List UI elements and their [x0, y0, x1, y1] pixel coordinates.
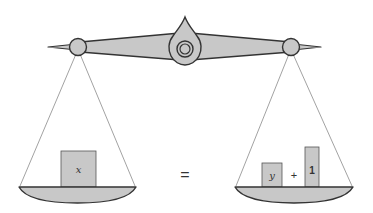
scale-beam [48, 17, 321, 65]
balance-scale-diagram: x = y + 1 [0, 0, 373, 213]
right-box-1: 1 [305, 147, 319, 187]
right-pan-dish [235, 187, 353, 203]
box-label-y: y [268, 170, 275, 181]
plus-sign: + [291, 169, 297, 181]
right-pan-strings [236, 54, 352, 186]
left-pan-dish [19, 187, 136, 203]
box-label-1: 1 [309, 165, 315, 176]
equals-sign: = [180, 166, 189, 183]
box-label-x: x [76, 164, 82, 175]
right-pivot [283, 39, 300, 56]
right-box-y: y [262, 163, 282, 187]
left-box-x: x [61, 151, 96, 187]
left-pivot [70, 39, 87, 56]
